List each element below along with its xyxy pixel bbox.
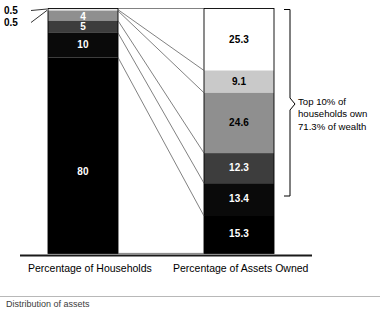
label-households-10: 10 — [48, 40, 118, 50]
connector-4 — [118, 33, 204, 183]
connector-5 — [118, 57, 204, 216]
leader-line-0.5-b — [31, 10, 47, 22]
label-households-4: 4 — [48, 12, 118, 22]
segment-households-80 — [48, 57, 118, 253]
label-assets-13.4: 13.4 — [204, 194, 274, 204]
label-households-5: 5 — [48, 22, 118, 32]
callout-leader-lines — [31, 9, 47, 23]
callout-label-0.5-second: 0.5 — [4, 18, 18, 28]
bracket-path — [284, 10, 295, 197]
label-households-80: 80 — [48, 167, 118, 177]
label-assets-12.3: 12.3 — [204, 163, 274, 173]
axis-label-households: Percentage of Households — [28, 263, 138, 274]
annotation-line-2: households own — [298, 108, 378, 120]
bar-assets — [204, 9, 274, 254]
figure-caption: Distribution of assets — [6, 300, 90, 309]
connector-3 — [118, 21, 204, 153]
label-assets-25.3: 25.3 — [204, 35, 274, 45]
top-decile-annotation: Top 10% of households own 71.3% of wealt… — [298, 96, 378, 133]
callout-label-0.5-top: 0.5 — [4, 6, 18, 16]
top-decile-bracket — [284, 10, 295, 197]
chart-figure: 4 5 10 80 0.5 0.5 25.3 9.1 24.6 12.3 13.… — [0, 0, 380, 309]
label-assets-24.6: 24.6 — [204, 118, 274, 128]
leader-line-0.5-a — [31, 9, 47, 11]
connector-lines — [118, 9, 204, 254]
annotation-line-3: 71.3% of wealth — [298, 121, 378, 133]
annotation-line-1: Top 10% of — [298, 96, 378, 108]
label-assets-15.3: 15.3 — [204, 229, 274, 239]
label-assets-9.1: 9.1 — [204, 77, 274, 87]
axis-label-assets: Percentage of Assets Owned — [173, 263, 305, 274]
